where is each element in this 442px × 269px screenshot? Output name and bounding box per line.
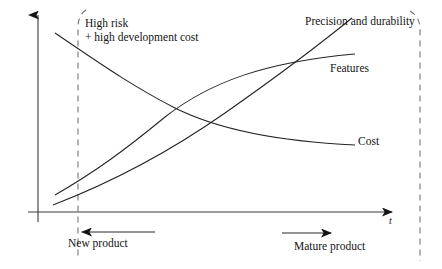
annotation-high-risk: High risk + high development cost <box>85 16 198 44</box>
region-arrows <box>82 232 331 233</box>
new-product-boundary-line <box>78 10 86 256</box>
series-label-features: Features <box>330 61 369 75</box>
data-curves <box>53 18 355 205</box>
annotation-high-risk-line2: + high development cost <box>85 30 198 44</box>
curve-precision-and-durability <box>53 18 352 205</box>
curve-cost <box>55 33 355 145</box>
diagram-canvas: High risk + high development cost Precis… <box>0 0 442 269</box>
annotation-high-risk-line1: High risk <box>85 16 198 30</box>
mature-product-boundary-line <box>410 11 420 261</box>
series-label-precision: Precision and durability <box>305 14 415 28</box>
axis-lines <box>28 15 392 222</box>
region-label-mature-product: Mature product <box>294 239 365 253</box>
curve-features <box>55 54 355 195</box>
region-label-new-product: New product <box>68 236 128 250</box>
x-axis-label: t <box>389 215 392 227</box>
series-label-cost: Cost <box>358 134 379 148</box>
